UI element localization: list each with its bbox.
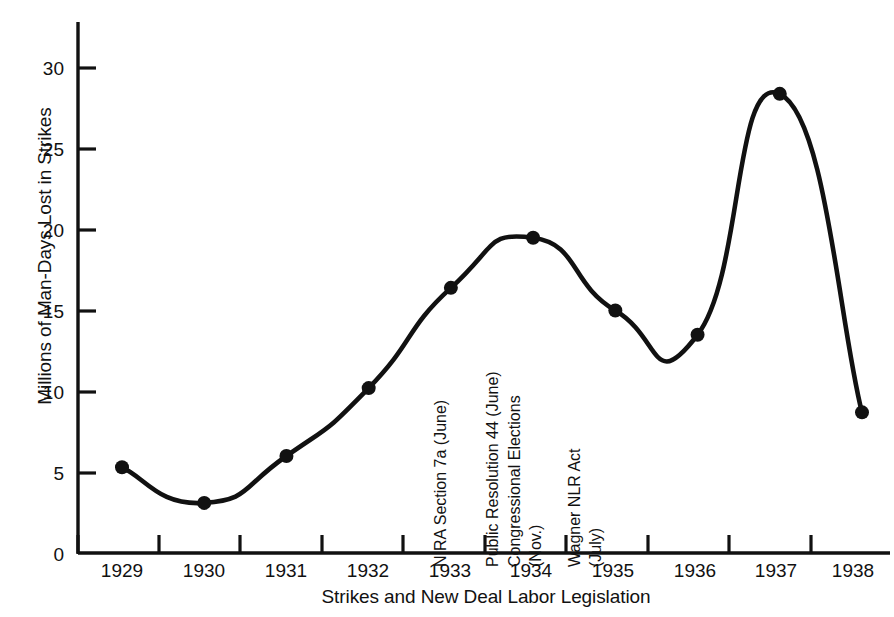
data-point-1929 bbox=[115, 460, 129, 474]
data-point-1938 bbox=[855, 405, 869, 419]
x-tick-label-1936: 1936 bbox=[654, 561, 736, 580]
data-point-1937 bbox=[773, 87, 787, 101]
y-axis-title: Millions of Man-Days Lost in Strikes bbox=[30, 0, 60, 536]
x-tick-label-1930: 1930 bbox=[163, 561, 245, 580]
data-point-1931 bbox=[279, 449, 293, 463]
data-point-1932 bbox=[362, 381, 376, 395]
x-tick-label-1935: 1935 bbox=[572, 561, 654, 580]
x-axis-title: Strikes and New Deal Labor Legislation bbox=[78, 586, 894, 608]
annotation-congressional-elections-month: (Nov.) bbox=[528, 525, 544, 567]
data-point-1935 bbox=[608, 304, 622, 318]
x-tick-label-1938: 1938 bbox=[812, 561, 894, 580]
annotation-nira-section-7a: NIRA Section 7a (June) bbox=[433, 400, 449, 567]
data-point-1930 bbox=[197, 496, 211, 510]
annotation-wagner-nlr-act: Wagner NLR Act bbox=[567, 448, 583, 567]
y-axis-ticks bbox=[78, 68, 96, 473]
annotation-congressional-elections: Congressional Elections bbox=[507, 395, 523, 567]
data-point-1933 bbox=[444, 281, 458, 295]
line-chart-figure: 30 25 20 15 10 5 0 1929 1930 1931 1932 1… bbox=[0, 0, 894, 617]
x-tick-label-1929: 1929 bbox=[81, 561, 163, 580]
annotation-wagner-nlr-act-month: (July) bbox=[588, 528, 604, 567]
x-tick-label-1933: 1933 bbox=[409, 561, 491, 580]
x-tick-label-1932: 1932 bbox=[327, 561, 409, 580]
annotation-public-resolution-44: Public Resolution 44 (June) bbox=[485, 371, 501, 567]
y-tick-label-0: 0 bbox=[20, 545, 64, 564]
x-tick-label-1937: 1937 bbox=[735, 561, 817, 580]
data-point-1936 bbox=[691, 328, 705, 342]
x-tick-label-1931: 1931 bbox=[245, 561, 327, 580]
data-point-1934 bbox=[526, 231, 540, 245]
